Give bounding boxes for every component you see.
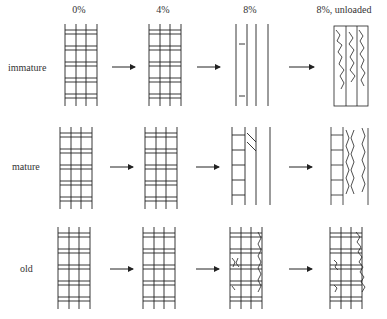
arrows bbox=[110, 67, 314, 269]
mature-0 bbox=[60, 127, 92, 209]
old-0 bbox=[58, 227, 90, 309]
old-8-unloaded bbox=[330, 227, 365, 309]
immature-0 bbox=[65, 24, 97, 106]
old-4 bbox=[143, 227, 175, 309]
mature-4 bbox=[145, 127, 177, 209]
mature-8-unloaded bbox=[331, 127, 368, 205]
immature-8-unloaded bbox=[334, 26, 368, 106]
immature-4 bbox=[149, 24, 181, 106]
mature-8 bbox=[232, 127, 270, 205]
old-8 bbox=[230, 227, 262, 309]
immature-8 bbox=[236, 24, 268, 106]
tissue-strain-diagram bbox=[0, 0, 387, 319]
